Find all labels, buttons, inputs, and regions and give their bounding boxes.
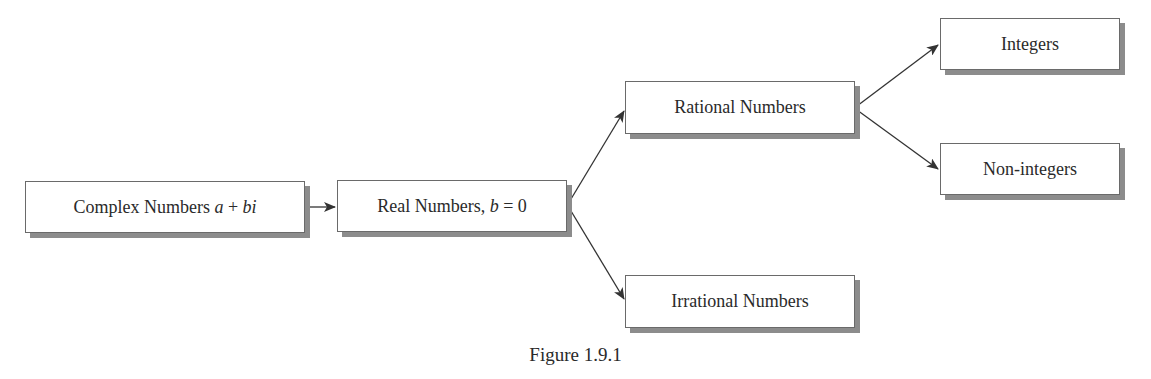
real-math-b: b bbox=[490, 196, 499, 217]
complex-label: Complex Numbers bbox=[73, 197, 214, 218]
integers-label: Integers bbox=[1001, 34, 1059, 55]
node-irrational-numbers: Irrational Numbers bbox=[625, 275, 855, 328]
node-rational-numbers: Rational Numbers bbox=[625, 81, 855, 134]
real-eq: = 0 bbox=[499, 196, 527, 217]
complex-math-a: a bbox=[214, 197, 223, 218]
rational-label: Rational Numbers bbox=[674, 97, 805, 118]
edge-real-irrational bbox=[568, 206, 624, 299]
node-integers: Integers bbox=[940, 18, 1120, 70]
node-real-numbers: Real Numbers, b = 0 bbox=[337, 180, 567, 232]
complex-math-bi: bi bbox=[243, 197, 257, 218]
edge-rational-non-integers bbox=[857, 110, 938, 169]
edge-rational-integers bbox=[857, 45, 938, 106]
edge-real-rational bbox=[568, 111, 624, 204]
node-complex-numbers: Complex Numbers a + bi bbox=[25, 181, 305, 233]
real-label: Real Numbers, bbox=[377, 196, 489, 217]
figure-caption: Figure 1.9.1 bbox=[0, 344, 1151, 366]
complex-math-plus: + bbox=[223, 197, 242, 218]
node-non-integers: Non-integers bbox=[940, 143, 1120, 195]
non-integers-label: Non-integers bbox=[983, 159, 1077, 180]
irrational-label: Irrational Numbers bbox=[671, 291, 808, 312]
